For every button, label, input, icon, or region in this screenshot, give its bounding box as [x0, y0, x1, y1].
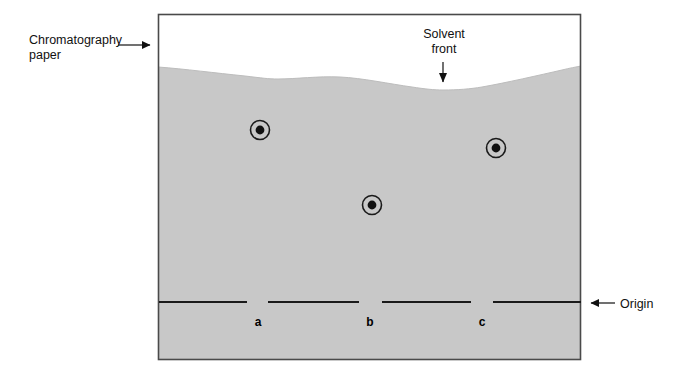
- chromatography-paper-label: Chromatographypaper: [29, 33, 122, 63]
- solvent-front-label: Solventfront: [412, 27, 476, 57]
- lane-label-b: b: [360, 315, 380, 329]
- chromatography-paper-label-line2: paper: [29, 48, 61, 62]
- solvent-front-label-line2: front: [431, 42, 456, 56]
- lane-label-a: a: [248, 315, 268, 329]
- chromatography-figure: Chromatographypaper Solventfront Origin …: [0, 0, 681, 378]
- origin-label: Origin: [620, 297, 653, 312]
- lane-label-c: c: [472, 315, 492, 329]
- chromatography-paper-label-line1: Chromatography: [29, 33, 122, 47]
- solvent-front-label-line1: Solvent: [423, 27, 465, 41]
